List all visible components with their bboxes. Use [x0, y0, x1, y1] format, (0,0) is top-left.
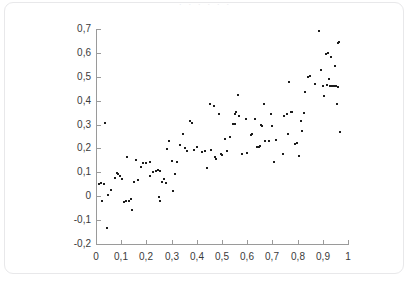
x-tick-0	[96, 240, 97, 244]
scatter-point	[159, 170, 161, 172]
scatter-point	[145, 162, 147, 164]
scatter-point	[301, 130, 303, 132]
scatter-point	[235, 111, 237, 113]
scatter-point	[334, 65, 336, 67]
scatter-point	[126, 156, 128, 158]
scatter-point	[283, 115, 285, 117]
x-tick-6	[247, 240, 248, 244]
scatter-point	[259, 145, 261, 147]
scatter-point	[184, 147, 186, 149]
scatter-point	[128, 200, 130, 202]
y-tick-2	[97, 196, 101, 197]
scatter-point	[103, 183, 105, 185]
x-tick-1	[121, 240, 122, 244]
y-tick-3	[97, 172, 101, 173]
scatter-point	[296, 142, 298, 144]
scatter-point	[246, 152, 248, 154]
scatter-point	[104, 122, 106, 124]
scatter-point	[314, 83, 316, 85]
scatter-point	[286, 113, 288, 115]
scatter-point	[326, 84, 328, 86]
scatter-point	[224, 138, 226, 140]
scatter-point	[172, 190, 174, 192]
scatter-point	[245, 118, 247, 120]
y-tick-5	[97, 125, 101, 126]
scatter-point	[106, 227, 108, 229]
scatter-point	[241, 153, 243, 155]
scatter-point	[322, 85, 324, 87]
scatter-point	[161, 181, 163, 183]
x-tick-9	[323, 240, 324, 244]
scatter-point	[135, 159, 137, 161]
scatter-point	[287, 133, 289, 135]
scatter-point	[251, 133, 253, 135]
scatter-point	[114, 177, 116, 179]
scatter-point	[304, 91, 306, 93]
scatter-point	[201, 151, 203, 153]
scatter-point	[328, 78, 330, 80]
scatter-plot: -0,2-0,100,10,20,30,40,50,60,7 00,10,20,…	[0, 0, 410, 281]
scatter-point	[149, 161, 151, 163]
scatter-point	[168, 140, 170, 142]
x-tick-2	[146, 240, 147, 244]
scatter-point	[254, 118, 256, 120]
scatter-point	[174, 173, 176, 175]
scatter-point	[238, 115, 240, 117]
y-tick-9	[97, 29, 101, 30]
scatter-point	[229, 136, 231, 138]
scatter-point	[261, 125, 263, 127]
scatter-point	[273, 161, 275, 163]
scatter-point	[149, 175, 151, 177]
scatter-point	[330, 56, 332, 58]
y-tick-1	[97, 220, 101, 221]
scatter-point	[131, 209, 133, 211]
x-tick-5	[222, 240, 223, 244]
scatter-point	[107, 194, 109, 196]
x-axis-tick-labels: 00,10,20,30,40,50,60,70,80,91	[0, 0, 410, 281]
scatter-point	[264, 140, 266, 142]
scatter-point	[327, 52, 329, 54]
scatter-point	[204, 150, 206, 152]
scatter-point	[137, 179, 139, 181]
scatter-point	[336, 103, 338, 105]
scatter-point	[186, 150, 188, 152]
x-tick-label-10: 1	[328, 252, 368, 262]
scatter-point	[218, 113, 220, 115]
scatter-point	[158, 196, 160, 198]
scatter-point	[221, 154, 223, 156]
scatter-point	[303, 112, 305, 114]
scatter-point	[213, 105, 215, 107]
scatter-point	[130, 198, 132, 200]
scatter-point	[159, 200, 161, 202]
scatter-point	[309, 75, 311, 77]
scatter-point	[275, 139, 277, 141]
scatter-point	[171, 160, 173, 162]
scatter-point	[176, 161, 178, 163]
scatter-point	[298, 155, 300, 157]
scatter-point	[339, 131, 341, 133]
scatter-point	[271, 125, 273, 127]
y-tick-8	[97, 53, 101, 54]
screenshot-root: · · · · · · -0,2-0,100,10,20,30,40,50,60…	[0, 0, 410, 281]
scatter-point	[121, 178, 123, 180]
scatter-point	[193, 149, 195, 151]
scatter-point	[282, 153, 284, 155]
scatter-point	[237, 94, 239, 96]
scatter-point	[268, 140, 270, 142]
scatter-point	[101, 200, 103, 202]
scatter-point	[125, 200, 127, 202]
x-tick-7	[272, 240, 273, 244]
scatter-point	[323, 95, 325, 97]
x-tick-4	[197, 240, 198, 244]
scatter-point	[119, 175, 121, 177]
scatter-point	[320, 69, 322, 71]
scatter-point	[288, 81, 290, 83]
scatter-point	[165, 182, 167, 184]
scatter-point	[300, 120, 302, 122]
scatter-point	[166, 148, 168, 150]
scatter-point	[338, 41, 340, 43]
y-tick-7	[97, 77, 101, 78]
scatter-point	[210, 149, 212, 151]
y-tick-6	[97, 101, 101, 102]
x-tick-8	[298, 240, 299, 244]
